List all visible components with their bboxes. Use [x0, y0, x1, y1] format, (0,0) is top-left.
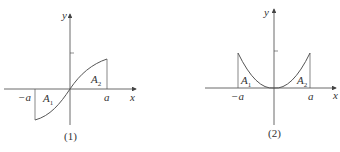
neg-a-label: −a	[231, 91, 244, 102]
area-a1-label: A1	[241, 75, 251, 89]
pos-a-label: a	[308, 91, 314, 102]
y-axis-label: y	[264, 7, 269, 18]
diagram-canvas	[0, 0, 340, 152]
neg-a-label: −a	[18, 92, 31, 103]
caption-2: (2)	[268, 128, 281, 139]
area-a2-label: A2	[91, 74, 101, 88]
area-a1-label: A1	[43, 93, 53, 107]
y-axis-label: y	[62, 10, 67, 21]
pos-a-label: a	[104, 92, 110, 103]
x-axis-label: x	[333, 90, 338, 101]
caption-1: (1)	[64, 131, 77, 142]
odd-curve	[35, 59, 107, 120]
area-a2-label: A2	[297, 75, 307, 89]
figure-2-graph	[205, 9, 336, 125]
x-axis-label: x	[130, 92, 135, 103]
figure-1-graph	[4, 14, 136, 125]
